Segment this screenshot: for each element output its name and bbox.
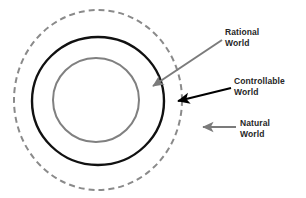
rational-world-circle — [53, 58, 139, 142]
rational-world-label-line2: World — [225, 38, 259, 49]
diagram-canvas — [0, 0, 306, 198]
controllable-world-arrow — [178, 88, 231, 101]
rational-world-arrow — [153, 40, 222, 86]
controllable-world-label-line2: World — [234, 87, 285, 98]
rational-world-label-line1: Rational — [225, 27, 259, 38]
natural-world-label: Natural World — [240, 118, 270, 140]
rational-world-label: Rational World — [225, 27, 259, 49]
controllable-world-circle — [32, 37, 164, 165]
controllable-world-label: Controllable World — [234, 76, 285, 98]
controllable-world-label-line1: Controllable — [234, 76, 285, 87]
natural-world-label-line2: World — [240, 129, 270, 140]
concentric-worlds-diagram: Rational World Controllable World Natura… — [0, 0, 306, 198]
natural-world-label-line1: Natural — [240, 118, 270, 129]
